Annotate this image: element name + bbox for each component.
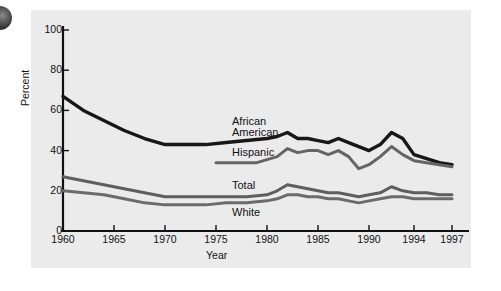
series-label-hispanic: Hispanic bbox=[232, 147, 274, 159]
x-tick-1965: 1965 bbox=[102, 233, 125, 245]
series-line-white bbox=[63, 191, 452, 205]
x-tick-1997: 1997 bbox=[440, 233, 463, 245]
x-tick-1975: 1975 bbox=[204, 233, 227, 245]
y-tick-80: 80 bbox=[36, 63, 62, 75]
x-tick-1980: 1980 bbox=[255, 233, 278, 245]
series-label-american: American bbox=[232, 127, 278, 139]
x-tick-1994: 1994 bbox=[402, 233, 425, 245]
x-axis-tick-labels: 196019651970197519801985199019941997 bbox=[0, 233, 501, 249]
series-label-total: Total bbox=[232, 180, 255, 192]
series-line-total bbox=[63, 177, 452, 197]
x-tick-1970: 1970 bbox=[153, 233, 176, 245]
x-tick-1990: 1990 bbox=[357, 233, 380, 245]
y-tick-20: 20 bbox=[36, 184, 62, 196]
x-axis-title: Year bbox=[206, 249, 227, 261]
y-tick-40: 40 bbox=[36, 144, 62, 156]
y-tick-60: 60 bbox=[36, 103, 62, 115]
y-tick-100: 100 bbox=[36, 23, 62, 35]
figure-root: 020406080100 196019651970197519801985199… bbox=[0, 0, 501, 291]
x-tick-1960: 1960 bbox=[51, 233, 74, 245]
y-axis-title: Percent bbox=[19, 70, 31, 106]
x-tick-1985: 1985 bbox=[306, 233, 329, 245]
series-label-white: White bbox=[232, 207, 260, 219]
